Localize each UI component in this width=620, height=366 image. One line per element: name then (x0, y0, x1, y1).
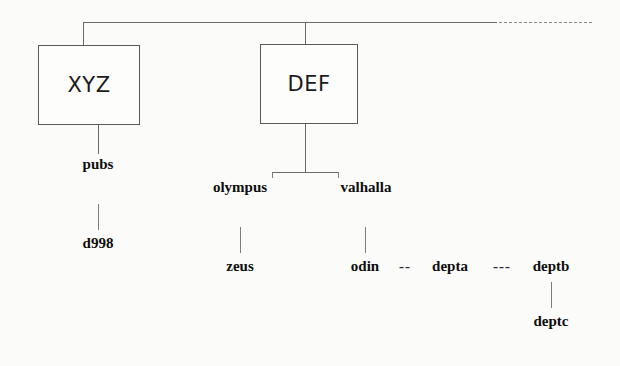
trunk-dashed-continuation (499, 22, 592, 23)
pubs-to-d998-connector (98, 204, 99, 230)
node-label-pubs[interactable]: pubs (83, 156, 114, 173)
node-label-d998[interactable]: d998 (83, 235, 114, 252)
split-to-valhalla-connector (338, 172, 339, 178)
node-label-valhalla[interactable]: valhalla (341, 179, 392, 196)
node-label-odin[interactable]: odin (351, 258, 379, 275)
olympus-to-zeus-connector (240, 227, 241, 253)
node-box-def-label: DEF (287, 72, 330, 96)
node-label-deptc[interactable]: deptc (534, 313, 569, 330)
dash-connector-depta-deptb: --- (493, 258, 511, 275)
node-label-depta[interactable]: depta (432, 258, 468, 275)
node-label-zeus[interactable]: zeus (226, 258, 254, 275)
node-label-olympus[interactable]: olympus (213, 179, 267, 196)
dash-connector-odin-depta: -- (399, 258, 411, 275)
deptb-to-deptc-connector (551, 282, 552, 308)
node-box-xyz[interactable]: XYZ (38, 45, 140, 125)
trunk-to-xyz-connector (83, 22, 84, 46)
node-box-def[interactable]: DEF (260, 44, 358, 124)
trunk-to-def-connector (305, 22, 306, 45)
split-to-olympus-connector (272, 172, 273, 178)
def-to-split-connector (305, 124, 306, 172)
trunk-horizontal-line (83, 22, 497, 23)
node-box-xyz-label: XYZ (67, 73, 110, 97)
valhalla-to-odin-connector (365, 227, 366, 253)
def-children-split-bar (272, 172, 338, 173)
xyz-to-pubs-connector (98, 125, 99, 154)
diagram-canvas: XYZ DEF pubs d998 olympus valhalla zeus … (0, 0, 620, 366)
node-label-deptb[interactable]: deptb (533, 258, 570, 275)
